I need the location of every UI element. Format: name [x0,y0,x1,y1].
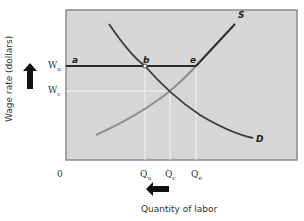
x-tick-qu: Qu [140,170,151,181]
point-b-label: b [143,56,149,65]
point-a-label: a [72,56,78,65]
point-e-label: e [190,56,196,65]
origin-label: 0 [57,170,63,179]
diagram-canvas [0,0,304,221]
x-tick-qc: Qc [165,170,176,181]
y-axis-label: Wage rate (dollars) [4,36,14,122]
x-tick-qe: Qe [191,170,202,181]
supply-label: S [238,11,244,20]
left-arrow-icon [146,182,169,196]
demand-label: D [256,135,263,144]
y-tick-wc: Wc [48,86,61,97]
y-tick-wu: Wu [48,61,61,72]
x-axis-label: Quantity of labor [141,204,217,214]
labor-market-diagram: S D a b e Wu Wc 0 Qu Qc Qe Wage rate (do… [0,0,304,221]
up-arrow-icon [23,63,37,89]
